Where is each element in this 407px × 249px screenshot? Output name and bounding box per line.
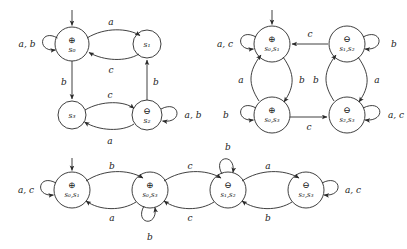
edge-d2-tr-self[interactable] xyxy=(363,35,379,50)
edge-label-d3-n1-n2: b xyxy=(109,161,115,171)
edge-label-d1-s0-s1: a xyxy=(108,17,113,27)
state-label-d2-tr: s₁,s₂ xyxy=(339,45,354,53)
edge-label-d2-br-tr: b xyxy=(313,75,319,85)
state-d2-s2s3[interactable] xyxy=(329,97,365,133)
edge-label-d3-n2-n3: c xyxy=(187,161,192,171)
state-label-d1-s0: s₀ xyxy=(69,45,76,54)
edge-label-d1-s0-self: a, b xyxy=(19,39,36,49)
state-mark-d2-tr: ⊖ xyxy=(343,34,351,44)
edge-s0-s1[interactable] xyxy=(87,30,140,38)
edge-label-d1-s0-s3: b xyxy=(61,77,67,87)
edge-s3-s2[interactable] xyxy=(85,103,134,110)
edge-d3-n4-self[interactable] xyxy=(322,181,338,196)
state-label-d1-s2: s₂ xyxy=(144,116,151,125)
edge-label-d1-s2-s1: b xyxy=(153,77,159,87)
edge-label-d1-s2-self: a, b xyxy=(185,110,202,120)
edge-label-d3-n4-n3: b xyxy=(265,213,271,223)
state-label-d2-tl: s₀,s₁ xyxy=(264,45,279,53)
edge-label-d2-tr-br: a xyxy=(374,75,379,85)
edge-d3-n3-n4[interactable] xyxy=(242,172,299,181)
edge-s1-s0[interactable] xyxy=(89,53,139,60)
automata-figure: ⊕ s₀ s₁ s₃ ⊖ s₂ a, b a c b b c a a, b ⊕ … xyxy=(0,0,407,249)
edge-d2-br-tr[interactable] xyxy=(326,55,336,101)
edge-label-d2-tr-tl: c xyxy=(307,29,312,39)
state-mark-d3-n1: ⊕ xyxy=(68,180,76,190)
edge-label-d2-br-self: a, c xyxy=(388,110,404,120)
edge-d2-br-self[interactable] xyxy=(363,106,380,121)
edge-label-d3-n3-n4: a xyxy=(265,161,270,171)
state-d3-s1s2[interactable] xyxy=(210,172,246,208)
edge-d3-n1-n2[interactable] xyxy=(86,172,143,181)
state-d3-s0s1[interactable] xyxy=(54,172,90,208)
state-mark-d2-br: ⊖ xyxy=(343,105,351,115)
state-label-d1-s1: s₁ xyxy=(144,40,151,49)
state-mark-d1-s0: ⊕ xyxy=(68,35,76,45)
edge-label-d2-tl-bl: b xyxy=(299,75,305,85)
state-label-d3-n4: s₂,s₃ xyxy=(298,191,313,199)
edge-label-d3-n2-n1: a xyxy=(109,213,114,223)
edge-d2-bl-tl[interactable] xyxy=(251,55,261,101)
state-d3-s0s3[interactable] xyxy=(132,172,168,208)
edge-d3-n4-n3[interactable] xyxy=(242,201,292,209)
state-label-d3-n2: s₀,s₃ xyxy=(142,191,157,199)
edge-label-d1-s1-s0: c xyxy=(108,65,113,75)
edge-label-d1-s3-s2: c xyxy=(107,90,112,100)
edge-d3-n2-n1[interactable] xyxy=(86,201,136,209)
edge-label-d3-n4-self: a, c xyxy=(345,185,361,195)
edge-label-d2-tl-self: a, c xyxy=(217,39,233,49)
state-mark-d3-n3: ⊖ xyxy=(224,180,232,190)
state-mark-d3-n2: ⊕ xyxy=(146,180,154,190)
edge-label-d2-bl-self: b xyxy=(223,110,229,120)
edge-label-d2-bl-tl: a xyxy=(238,75,243,85)
edge-label-d2-bl-br: c xyxy=(306,122,311,132)
state-d3-s2s3[interactable] xyxy=(288,172,324,208)
state-label-d3-n3: s₁,s₂ xyxy=(220,191,235,199)
state-label-d2-br: s₂,s₃ xyxy=(339,116,354,124)
figure-canvas: ⊕ s₀ s₁ s₃ ⊖ s₂ a, b a c b b c a a, b ⊕ … xyxy=(0,0,407,249)
state-mark-d1-s2: ⊖ xyxy=(143,106,151,116)
edge-label-d1-s2-s3: a xyxy=(107,136,112,146)
edge-s2-self[interactable] xyxy=(161,107,177,122)
state-d2-s0s3[interactable] xyxy=(254,97,290,133)
edge-d2-tl-bl[interactable] xyxy=(283,57,292,102)
edge-label-d3-n3-self: b xyxy=(225,142,231,152)
edge-label-d2-tr-self: b xyxy=(391,39,397,49)
edge-label-d3-n1-self: a, c xyxy=(18,185,34,195)
edge-label-d3-n3-n2: c xyxy=(187,213,192,223)
state-label-d3-n1: s₀,s₁ xyxy=(64,191,79,199)
state-mark-d3-n4: ⊖ xyxy=(302,180,310,190)
edge-d3-n2-n3[interactable] xyxy=(164,172,221,181)
edge-d3-n3-n2[interactable] xyxy=(164,201,214,209)
state-label-d2-bl: s₀,s₃ xyxy=(264,116,279,124)
edge-s2-s3[interactable] xyxy=(85,122,135,129)
edge-d2-tr-br[interactable] xyxy=(358,57,367,102)
state-mark-d2-bl: ⊕ xyxy=(268,105,276,115)
state-label-d1-s3: s₃ xyxy=(69,111,76,120)
edge-label-d3-n2-self: b xyxy=(147,232,153,242)
state-mark-d2-tl: ⊕ xyxy=(268,34,276,44)
